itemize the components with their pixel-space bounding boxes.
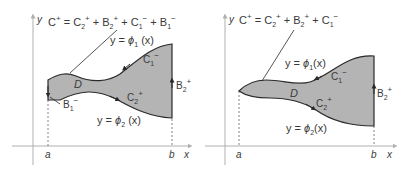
green-theorem-diagrams: y C+ = C2+ + B2+ + C1− + B1− y = ϕ1 (x) … (0, 0, 405, 178)
phi2-label: y = ϕ2(x) (286, 122, 327, 136)
b2-label: B2+ (377, 85, 393, 101)
phi1-label: y = ϕ1 (x) (110, 34, 154, 48)
phi1-label: y = ϕ1(x) (285, 57, 326, 71)
y-axis-label: y (36, 14, 43, 25)
y-axis-label: y (228, 14, 235, 25)
a-label: a (236, 149, 242, 160)
a-label: a (45, 149, 51, 160)
phi2-label: y = ϕ2 (x) (97, 114, 141, 128)
x-axis-label: x (183, 149, 190, 160)
b1-label: B1− (63, 96, 79, 112)
region-d-label: D (290, 87, 298, 99)
x-axis-label: x (386, 149, 393, 160)
region-d-label: D (74, 78, 82, 90)
left-figure: y C+ = C2+ + B2+ + C1− + B1− y = ϕ1 (x) … (12, 14, 192, 165)
formula-leader-line (262, 30, 294, 81)
right-figure: y C+ = C2+ + B2+ + C1− y = ϕ1(x) C1− D B… (205, 12, 395, 165)
b-label: b (169, 149, 175, 160)
formula: C+ = C2+ + B2+ + C1− (239, 12, 339, 28)
b-label: b (371, 149, 377, 160)
formula: C+ = C2+ + B2+ + C1− + B1− (48, 14, 176, 30)
b2-label: B2+ (176, 77, 192, 93)
